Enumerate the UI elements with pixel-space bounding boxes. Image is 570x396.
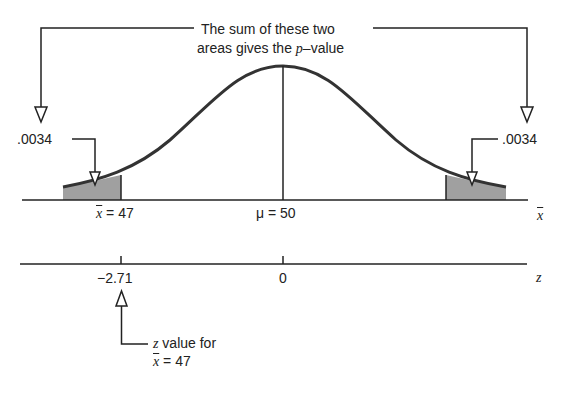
annotation-line-1: The sum of these two <box>201 21 335 37</box>
p-symbol: p <box>296 41 303 56</box>
z-center-tick-label: 0 <box>279 270 287 286</box>
top-bracket-right <box>373 28 527 108</box>
xbar-left-tick-label: x = 47 <box>96 205 134 222</box>
right-tail-area-label: .0034 <box>502 131 537 147</box>
right-tail-shade <box>446 175 506 200</box>
top-bracket-left <box>41 28 194 108</box>
z-note-xbar-symbol: x <box>153 354 159 369</box>
top-left-arrow-icon <box>35 107 47 122</box>
z-note-xbar-value: = 47 <box>163 353 191 369</box>
right-area-pointer <box>472 139 498 172</box>
mean-label: μ = 50 <box>256 205 296 221</box>
bell-curve <box>63 66 506 187</box>
z-note-text: value for <box>158 335 216 351</box>
z-note-pointer <box>122 306 149 344</box>
z-note-line-2: x = 47 <box>153 353 191 370</box>
left-area-pointer <box>72 139 95 172</box>
z-axis-label: z <box>536 270 541 286</box>
left-tail-area-label: .0034 <box>17 131 52 147</box>
xbar-symbol: x <box>96 206 102 221</box>
z-note-line-1: z value for <box>153 335 216 352</box>
xbar-value: = 47 <box>106 205 134 221</box>
normal-curve-diagram <box>0 0 570 396</box>
z-left-tick-label: −2.71 <box>97 270 132 286</box>
xbar-axis-label: x <box>537 208 543 224</box>
annotation-line-2-prefix: areas gives the <box>197 40 296 56</box>
z-note-arrow-icon <box>116 291 127 306</box>
annotation-line-2: areas gives the p–value <box>197 40 344 57</box>
annotation-line-2-suffix: –value <box>303 40 344 56</box>
top-right-arrow-icon <box>521 107 533 122</box>
